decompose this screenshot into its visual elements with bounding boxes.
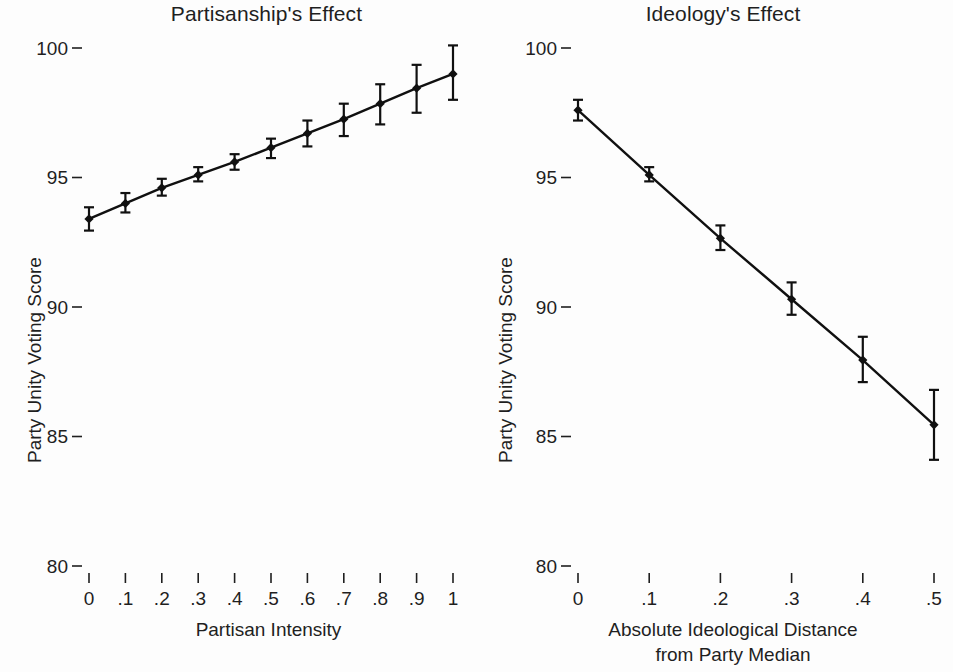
y-axis-tick-label: 95 bbox=[536, 167, 557, 188]
x-axis-tick-label: 1 bbox=[448, 588, 459, 609]
data-marker-diamond bbox=[448, 69, 457, 78]
y-axis-tick-label: 85 bbox=[47, 426, 68, 447]
series-line bbox=[578, 110, 934, 425]
x-axis-tick-label: .2 bbox=[712, 588, 728, 609]
figure-panels: Partisanship's Effect Party Unity Voting… bbox=[0, 0, 953, 672]
data-point bbox=[929, 390, 939, 460]
data-point bbox=[339, 104, 349, 136]
data-point bbox=[787, 282, 797, 314]
y-axis-tick-label: 90 bbox=[536, 297, 557, 318]
panel-partisanship: Partisanship's Effect Party Unity Voting… bbox=[0, 0, 473, 672]
y-axis-tick-label: 80 bbox=[536, 556, 557, 577]
data-point bbox=[375, 84, 385, 124]
data-point bbox=[120, 193, 130, 212]
data-point bbox=[412, 65, 422, 113]
x-axis-tick-label: .6 bbox=[299, 588, 315, 609]
x-axis-tick-label: .5 bbox=[263, 588, 279, 609]
y-axis-tick-label: 95 bbox=[47, 167, 68, 188]
data-point bbox=[230, 154, 240, 170]
data-marker-diamond bbox=[121, 199, 130, 208]
y-axis-tick-label: 100 bbox=[36, 38, 68, 59]
data-point bbox=[84, 207, 94, 230]
data-marker-diamond bbox=[412, 84, 421, 93]
x-axis-tick-label: .4 bbox=[227, 588, 243, 609]
data-point bbox=[157, 179, 167, 196]
x-axis-tick-label: .1 bbox=[117, 588, 133, 609]
x-axis-tick-label: 0 bbox=[84, 588, 95, 609]
y-axis-tick-label: 100 bbox=[525, 38, 557, 59]
x-axis-tick-label: .1 bbox=[641, 588, 657, 609]
panel-ideology: Ideology's Effect Party Unity Voting Sco… bbox=[473, 0, 953, 672]
data-marker-diamond bbox=[266, 143, 275, 152]
data-marker-diamond bbox=[376, 99, 385, 108]
x-axis-tick-label: .7 bbox=[336, 588, 352, 609]
plot-area-right: 808590951000.1.2.3.4.5 bbox=[473, 0, 953, 672]
data-marker-diamond bbox=[339, 115, 348, 124]
data-point bbox=[448, 45, 458, 99]
y-axis-tick-label: 90 bbox=[47, 297, 68, 318]
data-point bbox=[858, 337, 868, 382]
data-point bbox=[573, 100, 583, 121]
x-axis-tick-label: .3 bbox=[784, 588, 800, 609]
x-axis-tick-label: .9 bbox=[409, 588, 425, 609]
data-marker-diamond bbox=[194, 170, 203, 179]
x-axis-tick-label: .2 bbox=[154, 588, 170, 609]
plot-area-left: 808590951000.1.2.3.4.5.6.7.8.91 bbox=[0, 0, 473, 672]
x-axis-tick-label: .8 bbox=[372, 588, 388, 609]
data-marker-diamond bbox=[230, 157, 239, 166]
x-axis-tick-label: 0 bbox=[573, 588, 584, 609]
x-axis-tick-label: .3 bbox=[190, 588, 206, 609]
y-axis-tick-label: 85 bbox=[536, 426, 557, 447]
y-axis-tick-label: 80 bbox=[47, 556, 68, 577]
data-point bbox=[266, 139, 276, 158]
data-point bbox=[715, 225, 725, 250]
data-marker-diamond bbox=[84, 214, 93, 223]
data-point bbox=[193, 167, 203, 181]
data-marker-diamond bbox=[303, 129, 312, 138]
data-point bbox=[302, 121, 312, 147]
x-axis-tick-label: .4 bbox=[855, 588, 871, 609]
x-axis-tick-label: .5 bbox=[926, 588, 942, 609]
data-marker-diamond bbox=[157, 183, 166, 192]
